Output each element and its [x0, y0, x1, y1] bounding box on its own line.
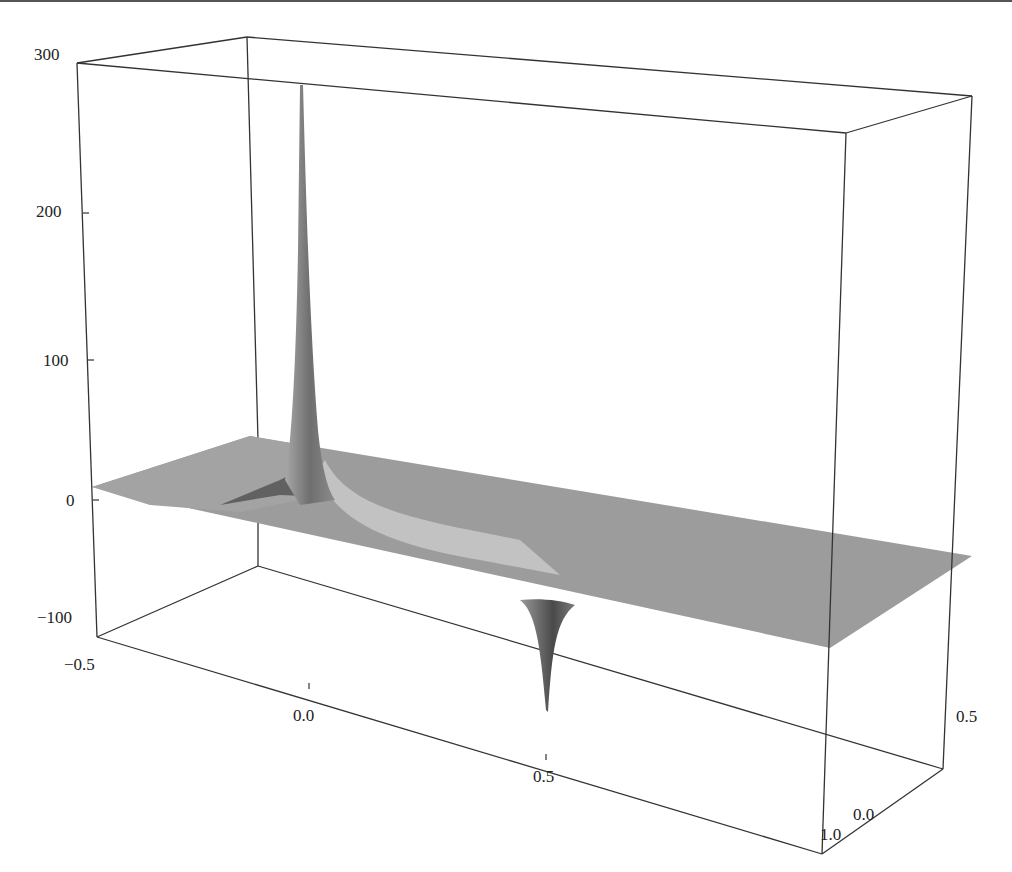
x-tick-label-0.0: 0.0: [293, 707, 314, 724]
box-edge-top-back: [247, 37, 972, 96]
box-edge-back-left-vertical: [247, 37, 258, 440]
box-edge-top-front: [77, 63, 846, 133]
z-tick-label-100: 100: [43, 352, 69, 369]
surface-peak: [285, 85, 335, 505]
y-tick-label-0.5: 0.5: [956, 708, 977, 725]
z-tick-label-300: 300: [34, 46, 60, 63]
z-tick-label-neg100: −100: [37, 609, 72, 626]
x-tick-label-1.0: 1.0: [820, 826, 841, 843]
box-edge-front-left-vertical: [77, 63, 97, 637]
surface: [92, 85, 972, 712]
box-edge-top-left-depth: [77, 37, 247, 63]
surface-left-wing: [92, 436, 300, 512]
box-back-edges: [97, 37, 943, 769]
z-tick-label-200: 200: [36, 203, 62, 220]
x-tick-label-neg0.5: −0.5: [64, 656, 95, 673]
box-edge-bottom-left-depth: [97, 566, 258, 637]
box-edge-back-right-vertical: [943, 96, 972, 769]
box-edge-top-right-depth: [846, 96, 972, 133]
surface-trough: [520, 599, 575, 712]
box-edge-front-right-vertical: [822, 133, 846, 854]
box-front-edges: [77, 37, 972, 854]
plot-canvas: [0, 0, 1012, 872]
box-edge-bottom-front: [97, 637, 822, 854]
z-tick-label-0: 0: [66, 492, 75, 509]
x-tick-label-0.5: 0.5: [533, 768, 554, 785]
y-tick-label-0.0: 0.0: [853, 806, 874, 823]
